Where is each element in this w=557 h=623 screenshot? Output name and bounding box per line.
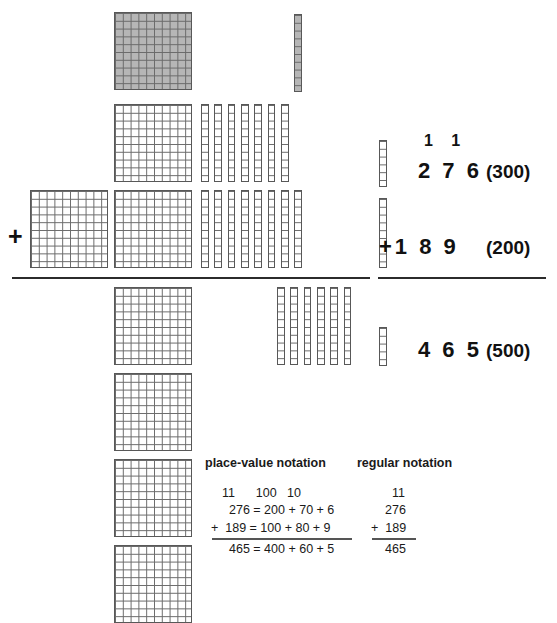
addend2-ten-rod [294, 190, 302, 268]
addend1-ten-rod [254, 104, 262, 182]
addend1-ten-rod [214, 104, 222, 182]
sum-hundred-square [114, 373, 192, 451]
addend2-ten-rod [268, 190, 276, 268]
algorithm-addend2-hundreds-note: (200) [486, 237, 530, 259]
blocks-answer-rule [12, 277, 370, 279]
algorithm-sum-digits: 4 6 5 [418, 337, 482, 363]
addend1-unit-column [379, 140, 387, 187]
addend2-ten-rod [241, 190, 249, 268]
algorithm-operator: + [379, 234, 395, 259]
addend1-hundred-square [114, 190, 192, 268]
plus-operator-sign: + [8, 224, 23, 249]
regular-sum-line: 465 [385, 542, 406, 556]
addend1-ten-rod [241, 104, 249, 182]
sum-hundred-square [114, 459, 192, 537]
place-value-addend1-line: 276 = 200 + 70 + 6 [229, 503, 334, 517]
addend2-hundred-square [30, 190, 108, 268]
addend1-ten-rod [201, 104, 209, 182]
regular-carry-line: 11 [392, 486, 405, 500]
place-value-sum-line: 465 = 400 + 60 + 5 [229, 542, 334, 556]
regular-notation-heading: regular notation [357, 456, 452, 470]
algorithm-operator-and-addend2-digits: +1 8 9 [379, 234, 459, 260]
regular-addend2-line: + 189 [371, 521, 406, 535]
place-value-addend2-line: + 189 = 100 + 80 + 9 [211, 521, 331, 535]
addend1-ten-rod [228, 104, 236, 182]
sum-ten-rod [304, 287, 312, 365]
place-value-notation-heading: place-value notation [205, 456, 326, 470]
sum-hundred-square [114, 287, 192, 365]
regular-addend1-line: 276 [385, 503, 406, 517]
sum-unit-column [379, 327, 387, 366]
sum-hundred-square [114, 545, 192, 623]
algorithm-addend2-digits: 1 8 9 [395, 234, 459, 259]
addend2-ten-rod [228, 190, 236, 268]
algorithm-carry-digits: 1 1 [424, 132, 467, 150]
addend2-ten-rod [201, 190, 209, 268]
addend2-ten-rod [281, 190, 289, 268]
sum-ten-rod [317, 287, 325, 365]
sum-ten-rod [330, 287, 338, 365]
regular-sum-rule [372, 538, 416, 540]
algorithm-addend1-digits: 2 7 6 [418, 158, 482, 184]
sum-ten-rod [277, 287, 285, 365]
sum-ten-rod [344, 287, 352, 365]
addend2-ten-rod [254, 190, 262, 268]
addend1-ten-rod [281, 104, 289, 182]
regrouped-ten-column-shaded [294, 14, 302, 92]
addend1-hundred-square [114, 104, 192, 182]
algorithm-addend1-hundreds-note: (300) [486, 161, 530, 183]
addend1-ten-rod [268, 104, 276, 182]
algorithm-answer-rule [378, 277, 546, 279]
sum-ten-rod [290, 287, 298, 365]
addend2-ten-rod [214, 190, 222, 268]
place-value-carry-line: 11 100 10 [222, 486, 301, 500]
place-value-sum-rule [212, 538, 352, 540]
regrouped-hundred-square-shaded [114, 12, 192, 90]
algorithm-sum-hundreds-note: (500) [486, 340, 530, 362]
